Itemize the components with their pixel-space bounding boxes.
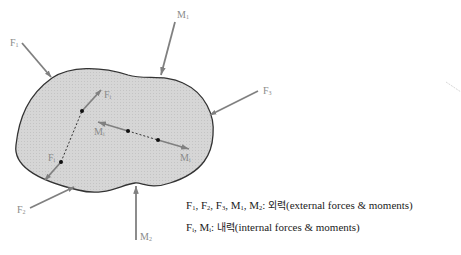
Fi-point-upper bbox=[80, 109, 84, 113]
legend-sym: M bbox=[249, 199, 259, 211]
legend-external: F1, F2, F3, M1, M2: 외력(external forces &… bbox=[186, 200, 413, 212]
legend-sym: M bbox=[231, 199, 241, 211]
label-F2: F2 bbox=[17, 205, 26, 215]
label-Fi-top: Fi bbox=[104, 90, 111, 100]
label-M2: M2 bbox=[140, 232, 152, 242]
arrow-M1 bbox=[161, 22, 175, 75]
label-base: M bbox=[94, 126, 103, 137]
label-sub: 1 bbox=[186, 14, 189, 20]
arrow-F1 bbox=[22, 43, 51, 77]
legend-korean-term: 외력 bbox=[268, 200, 286, 211]
label-sub: i bbox=[110, 94, 112, 100]
label-M1: M1 bbox=[177, 10, 189, 20]
label-Mi-left: Mi bbox=[94, 127, 105, 137]
rigid-body bbox=[16, 69, 213, 193]
Fi-point-lower bbox=[59, 160, 63, 164]
label-sub: 2 bbox=[23, 209, 26, 215]
label-sub: 1 bbox=[16, 42, 19, 48]
legend-english-term: (external forces & moments) bbox=[286, 199, 413, 211]
label-F1: F1 bbox=[10, 38, 19, 48]
label-sub: i bbox=[54, 157, 56, 163]
label-Mi-right: Mi bbox=[180, 153, 191, 163]
label-F3: F3 bbox=[263, 86, 272, 96]
free-body-diagram bbox=[0, 0, 461, 255]
label-base: M bbox=[180, 152, 189, 163]
stray-mark bbox=[446, 82, 461, 92]
legend-korean-term: 내력 bbox=[217, 222, 235, 233]
label-base: M bbox=[140, 231, 149, 242]
label-sub: 2 bbox=[149, 236, 152, 242]
label-Fi-bottom: Fi bbox=[48, 153, 55, 163]
label-sub: i bbox=[189, 157, 191, 163]
label-sub: 3 bbox=[269, 90, 272, 96]
arrow-F2 bbox=[30, 187, 74, 208]
legend-english-term: (internal forces & moments) bbox=[235, 221, 360, 233]
legend-sym: M bbox=[199, 221, 209, 233]
Mi-point-right bbox=[156, 138, 160, 142]
legend-internal: Fi, Mi: 내력(internal forces & moments) bbox=[186, 222, 360, 234]
label-base: M bbox=[177, 9, 186, 20]
arrow-F3 bbox=[210, 91, 258, 115]
Mi-point-left bbox=[126, 129, 130, 133]
label-sub: i bbox=[103, 131, 105, 137]
